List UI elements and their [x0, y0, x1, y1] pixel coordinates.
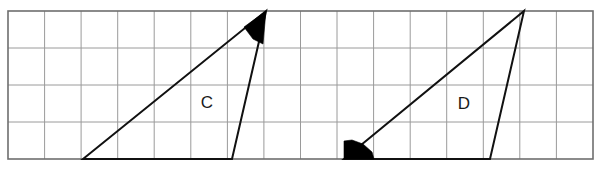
- figure-canvas: CD: [0, 0, 603, 171]
- geometry-figure: CD: [0, 0, 603, 171]
- triangle-d-label: D: [458, 94, 470, 113]
- triangle-c-label: C: [201, 93, 213, 112]
